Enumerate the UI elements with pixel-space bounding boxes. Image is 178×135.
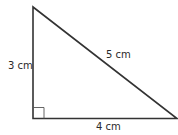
bottom-side-label: 4 cm [96,122,121,132]
left-side-label: 3 cm [8,61,33,71]
right-angle-marker [33,108,44,119]
triangle [33,7,177,119]
hypotenuse-label: 5 cm [106,50,131,60]
